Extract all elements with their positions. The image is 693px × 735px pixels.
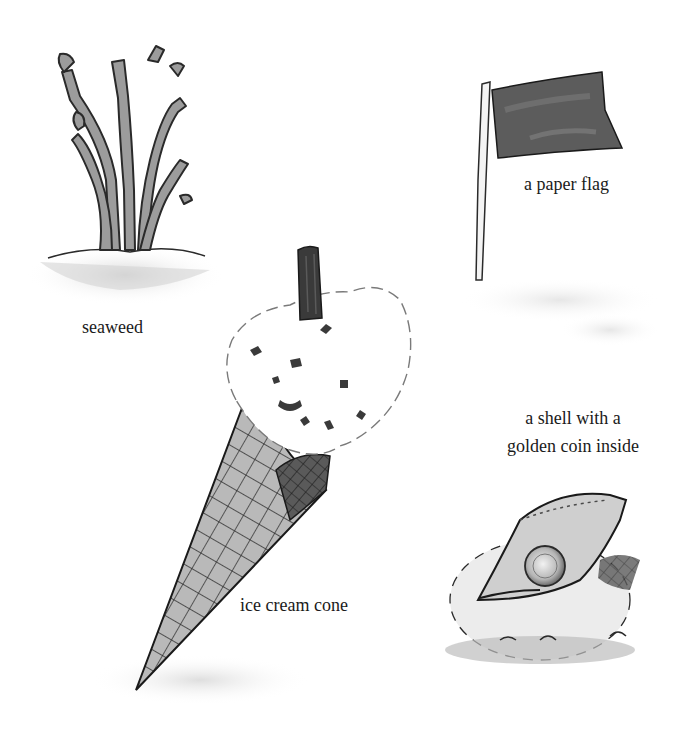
shell-label: a shell with a golden coin inside bbox=[478, 404, 668, 460]
sketch-artwork bbox=[0, 0, 693, 735]
shell-label-line-1: a shell with a bbox=[478, 404, 668, 432]
ice-cream-cone-label: ice cream cone bbox=[240, 593, 348, 617]
shell-drawing bbox=[445, 494, 640, 664]
seaweed-label: seaweed bbox=[82, 315, 143, 339]
shell-label-line-2: golden coin inside bbox=[478, 432, 668, 460]
seaweed-drawing bbox=[25, 46, 225, 305]
illustration-canvas: seaweed a paper flag a shell with a gold… bbox=[0, 0, 693, 735]
paper-flag-label: a paper flag bbox=[524, 172, 609, 196]
paper-flag-drawing bbox=[460, 72, 660, 346]
